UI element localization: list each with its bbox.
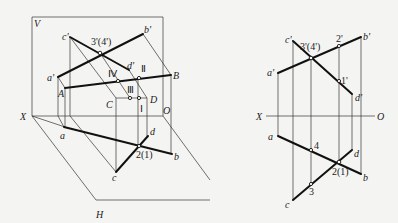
label-IV: Ⅳ (108, 68, 118, 79)
line-x-a (32, 116, 65, 127)
label-2-prime: 2' (336, 33, 343, 44)
label-a-prime: a' (47, 72, 55, 83)
point-2-prime (337, 44, 340, 47)
label-c-prime: c' (62, 31, 69, 42)
label-2-1: 2(1) (136, 149, 153, 161)
label-A: A (57, 88, 65, 99)
label-X: X (255, 111, 263, 122)
point-2-1 (137, 144, 140, 147)
label-I: Ⅰ (140, 103, 143, 114)
label-d: d (354, 148, 360, 159)
point-3-4-prime (98, 51, 102, 55)
label-C: C (106, 99, 113, 110)
label-d-prime: d' (127, 60, 135, 71)
point-I (137, 96, 140, 99)
label-III: Ⅲ (127, 84, 134, 95)
label-B: B (173, 70, 179, 81)
label-O: O (377, 111, 384, 122)
label-3: 3 (309, 186, 314, 197)
label-b-prime: b' (144, 24, 152, 35)
label-d: d (150, 126, 156, 137)
label-3-4-prime: 3'(4') (300, 41, 320, 53)
label-2-1: 2(1) (332, 166, 349, 178)
projector-b-prime-B (143, 34, 171, 75)
label-a-prime: a' (267, 67, 275, 78)
point-IV (116, 79, 119, 82)
label-3-4-prime: 3'(4') (91, 36, 111, 48)
label-b: b (363, 172, 368, 183)
label-a: a (268, 131, 273, 142)
label-b: b (174, 151, 179, 162)
label-O: O (163, 105, 170, 116)
label-H: H (95, 209, 104, 220)
point-2-1 (337, 160, 341, 164)
left-pictorial-diagram: V H X O c' b' a' d' 3'(4') A B C D Ⅳ Ⅱ Ⅲ… (19, 17, 210, 220)
label-II: Ⅱ (141, 63, 146, 74)
label-4: 4 (314, 140, 319, 151)
projector-a-prime-A (58, 77, 65, 88)
label-D: D (149, 94, 158, 105)
h-plane-edge (32, 116, 210, 200)
label-c: c (112, 172, 117, 183)
right-orthographic-diagram: X O c' b' a' d' 3'(4') 2' 1' a b c d 4 2… (255, 31, 384, 210)
point-II (137, 76, 140, 79)
label-V: V (34, 18, 42, 29)
label-b-prime: b' (363, 31, 371, 42)
line-ab (64, 127, 172, 154)
h-plane-right-edge (163, 116, 210, 180)
label-c-prime: c' (285, 34, 292, 45)
projector-c-ground (70, 116, 116, 172)
label-a: a (60, 130, 65, 141)
point-III (128, 96, 131, 99)
projection-diagram: V H X O c' b' a' d' 3'(4') A B C D Ⅳ Ⅱ Ⅲ… (0, 0, 398, 223)
label-1-prime: 1' (341, 75, 348, 86)
label-d-prime: d' (355, 92, 363, 103)
label-c: c (285, 199, 290, 210)
label-X: X (19, 111, 27, 122)
point-4 (309, 148, 312, 151)
point-3-4-prime (309, 56, 313, 60)
